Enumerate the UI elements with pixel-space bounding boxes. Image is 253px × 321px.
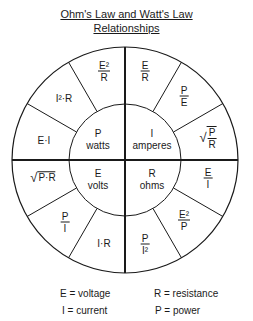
formula-i-er: ER (141, 60, 150, 83)
center-voltage: Evolts (88, 168, 109, 192)
center-resistance: Rohms (140, 168, 164, 192)
formula-p-i2r: I²·R (56, 93, 73, 105)
formula-r-pi2: PI² (141, 233, 150, 256)
formula-e-sqrt-pr: √P·R (30, 171, 55, 185)
center-power: Pwatts (86, 128, 109, 152)
formula-i-pe: PE (180, 85, 189, 108)
legend-power: P = power (155, 305, 200, 317)
formula-e-ir: I·R (97, 238, 110, 250)
formula-i-sqrt-pr: √PR (200, 126, 217, 150)
legend-voltage: E = voltage (60, 288, 110, 300)
legend-resistance: R = resistance (154, 288, 218, 300)
center-current: Iamperes (133, 128, 172, 152)
legend-current: I = current (62, 305, 107, 317)
formula-r-e2p: E²P (178, 209, 190, 232)
formula-p-ei: E·I (38, 135, 51, 147)
formula-r-ei: EI (204, 167, 213, 190)
formula-p-e2r: E²R (98, 60, 110, 83)
formula-e-pi: PI (61, 211, 70, 234)
wheel-diagram (0, 0, 253, 321)
